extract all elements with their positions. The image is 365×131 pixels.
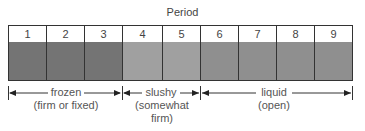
period-column-3: 3 xyxy=(85,26,123,80)
zone-legend: frozen (firm or fixed) slushy (somewhat … xyxy=(0,86,365,131)
period-number: 8 xyxy=(277,26,314,43)
period-column-4: 4 xyxy=(123,26,163,80)
slushy-label: slushy xyxy=(142,86,180,99)
frozen-cell xyxy=(9,61,46,80)
period-column-6: 6 xyxy=(201,26,239,80)
slushy-sublabel-2: firm) xyxy=(126,112,198,125)
period-grid: 1 2 3 4 5 6 7 8 9 xyxy=(8,25,353,81)
period-number: 3 xyxy=(85,26,122,43)
frozen-cell xyxy=(9,42,46,62)
slushy-cell xyxy=(123,42,162,62)
liquid-label: liquid xyxy=(256,86,292,99)
diagram-title: Period xyxy=(0,6,365,18)
frozen-label: frozen xyxy=(48,86,84,99)
liquid-cell xyxy=(277,61,314,80)
slushy-cell xyxy=(163,42,200,62)
period-number: 6 xyxy=(201,26,238,43)
frozen-cell xyxy=(85,61,122,80)
period-number: 5 xyxy=(163,26,200,43)
slushy-cell xyxy=(163,61,200,80)
period-number: 4 xyxy=(123,26,162,43)
frozen-cell xyxy=(47,61,84,80)
slushy-cell xyxy=(123,61,162,80)
slushy-sublabel-1: (somewhat xyxy=(126,99,198,112)
period-column-8: 8 xyxy=(277,26,315,80)
liquid-sublabel: (open) xyxy=(244,99,304,112)
period-number: 9 xyxy=(315,26,352,43)
period-number: 2 xyxy=(47,26,84,43)
frozen-cell xyxy=(47,42,84,62)
period-column-2: 2 xyxy=(47,26,85,80)
liquid-cell xyxy=(277,42,314,62)
liquid-cell xyxy=(201,42,238,62)
liquid-cell xyxy=(239,61,276,80)
liquid-cell xyxy=(201,61,238,80)
liquid-cell xyxy=(315,61,352,80)
liquid-cell xyxy=(315,42,352,62)
frozen-cell xyxy=(85,42,122,62)
period-column-1: 1 xyxy=(9,26,47,80)
period-column-9: 9 xyxy=(315,26,352,80)
frozen-sublabel: (firm or fixed) xyxy=(24,99,108,112)
period-column-7: 7 xyxy=(239,26,277,80)
period-number: 1 xyxy=(9,26,46,43)
period-column-5: 5 xyxy=(163,26,201,80)
liquid-cell xyxy=(239,42,276,62)
period-number: 7 xyxy=(239,26,276,43)
